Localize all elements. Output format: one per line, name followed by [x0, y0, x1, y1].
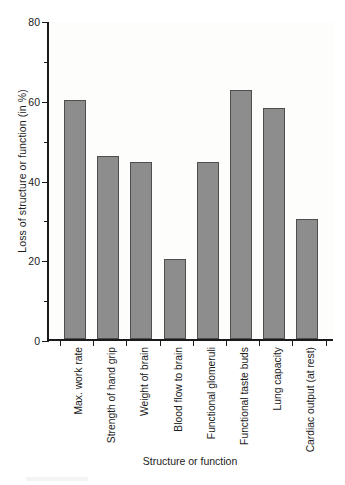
y-tick-major	[42, 102, 49, 103]
x-label-slot: Weight of brain	[128, 341, 161, 453]
y-tick-major	[42, 22, 49, 23]
x-tick-label: Functional glomeruli	[206, 347, 217, 439]
bar-slot	[64, 22, 97, 339]
plot-area	[47, 22, 333, 341]
y-tick-label: 60	[18, 97, 40, 107]
y-tick-label: 40	[18, 177, 40, 187]
bar-slot	[263, 22, 296, 339]
y-tick-label: 20	[18, 256, 40, 266]
x-label-slot: Blood flow to brain	[162, 341, 195, 453]
x-axis-title: Structure or function	[47, 455, 333, 467]
y-tick-label: 80	[18, 17, 40, 27]
bar-blood-flow-to-brain[interactable]	[164, 259, 186, 339]
x-label-slot: Functional taste buds	[228, 341, 261, 453]
y-axis-tick-labels: 020406080	[13, 0, 40, 345]
scan-artifact	[26, 477, 88, 481]
bar-max-work-rate[interactable]	[64, 100, 86, 339]
x-label-slot: Max. work rate	[62, 341, 95, 453]
x-tick-label: Blood flow to brain	[173, 347, 184, 432]
bar-slot	[230, 22, 263, 339]
x-tick-label: Strength of hand grip	[106, 347, 117, 443]
y-tick-label: 0	[18, 336, 40, 346]
bar-strength-of-hand-grip[interactable]	[97, 156, 119, 339]
x-tick-label: Functional taste buds	[239, 347, 250, 445]
bar-slot	[164, 22, 197, 339]
bar-weight-of-brain[interactable]	[130, 162, 152, 339]
x-axis-tick-labels: Max. work rateStrength of hand gripWeigh…	[47, 341, 333, 453]
bar-slot	[296, 22, 329, 339]
bar-lung-capacity[interactable]	[263, 108, 285, 339]
y-tick-major	[42, 182, 49, 183]
bar-chart-figure: Loss of structure or function (in %) 020…	[0, 0, 345, 485]
bars-layer	[49, 22, 333, 339]
bar-slot	[130, 22, 163, 339]
bar-slot	[197, 22, 230, 339]
y-tick-major	[42, 261, 49, 262]
x-label-slot: Functional glomeruli	[195, 341, 228, 453]
bar-slot	[97, 22, 130, 339]
bar-functional-taste-buds[interactable]	[230, 90, 252, 339]
bar-cardiac-output-at-rest[interactable]	[296, 219, 318, 339]
x-tick-label: Max. work rate	[73, 347, 84, 415]
x-label-slot: Strength of hand grip	[95, 341, 128, 453]
bar-functional-glomeruli[interactable]	[197, 162, 219, 339]
x-tick-label: Lung capacity	[272, 347, 283, 411]
x-label-slot: Lung capacity	[261, 341, 294, 453]
x-label-slot: Cardiac output (at rest)	[294, 341, 327, 453]
x-tick-label: Cardiac output (at rest)	[305, 347, 316, 452]
x-tick-label: Weight of brain	[139, 347, 150, 416]
